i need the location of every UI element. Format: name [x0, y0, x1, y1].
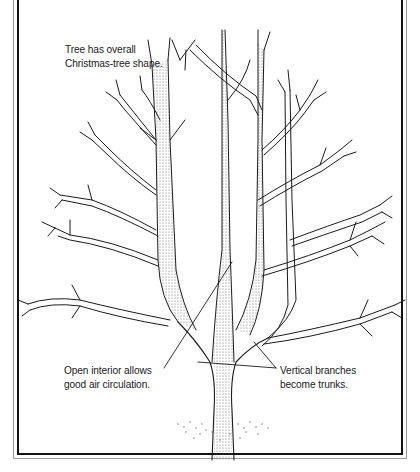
leader-vertical-b — [254, 342, 276, 368]
label-vertical-branches: Vertical branches become trunks. — [280, 363, 356, 391]
label-line: Open interior allows — [64, 363, 152, 377]
label-line: Vertical branches — [280, 363, 356, 377]
label-line: Tree has overall — [65, 42, 163, 56]
label-line: become trunks. — [280, 377, 356, 391]
leader-vertical-a — [198, 362, 276, 368]
tree-illustration — [0, 0, 420, 472]
label-line: good air circulation. — [64, 377, 152, 391]
label-open-interior: Open interior allows good air circulatio… — [64, 363, 152, 391]
label-line: Christmas-tree shape. — [65, 56, 163, 70]
label-christmas-tree-shape: Tree has overall Christmas-tree shape. — [65, 42, 163, 70]
